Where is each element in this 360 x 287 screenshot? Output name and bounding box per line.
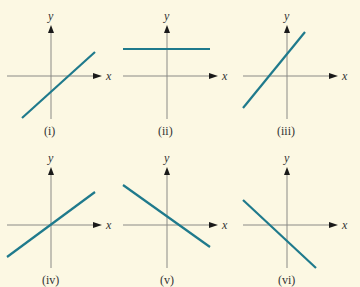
y-axis-arrow-icon: [48, 25, 54, 33]
panel-caption: (iii): [277, 124, 295, 138]
panel-i: y x (i): [7, 9, 112, 138]
y-axis-arrow-icon: [284, 25, 290, 33]
x-axis-label: x: [105, 69, 112, 83]
line-graph: [243, 32, 305, 108]
panel-iv: y x (iv): [7, 151, 112, 287]
line-graph: [22, 52, 95, 118]
x-axis-label: x: [341, 218, 348, 232]
x-axis-label: x: [105, 218, 112, 232]
panel-iii: y x (iii): [243, 9, 348, 138]
x-axis-arrow-icon: [329, 73, 338, 79]
panel-caption: (v): [160, 273, 174, 287]
y-axis-label: y: [47, 151, 54, 165]
panel-caption: (i): [44, 124, 55, 138]
panel-caption: (ii): [158, 124, 173, 138]
y-axis-label: y: [47, 9, 54, 23]
y-axis-label: y: [283, 151, 290, 165]
y-axis-arrow-icon: [164, 167, 170, 175]
y-axis-label: y: [163, 9, 170, 23]
x-axis-label: x: [221, 218, 228, 232]
y-axis-arrow-icon: [48, 167, 54, 175]
y-axis-label: y: [283, 9, 290, 23]
line-graph: [243, 200, 316, 268]
x-axis-arrow-icon: [329, 222, 338, 228]
panel-vi: y x (vi): [243, 151, 348, 287]
panel-v: y x (v): [123, 151, 228, 287]
six-line-graphs-figure: y x (i) y x (ii) y x (iii) y x (iv): [0, 0, 360, 287]
x-axis-arrow-icon: [93, 73, 102, 79]
y-axis-arrow-icon: [284, 167, 290, 175]
x-axis-arrow-icon: [209, 222, 218, 228]
x-axis-arrow-icon: [93, 222, 102, 228]
panel-ii: y x (ii): [123, 9, 228, 138]
panel-caption: (vi): [278, 273, 295, 287]
x-axis-label: x: [341, 69, 348, 83]
x-axis-label: x: [221, 69, 228, 83]
panel-caption: (iv): [42, 273, 59, 287]
y-axis-label: y: [163, 151, 170, 165]
x-axis-arrow-icon: [209, 73, 218, 79]
y-axis-arrow-icon: [164, 25, 170, 33]
